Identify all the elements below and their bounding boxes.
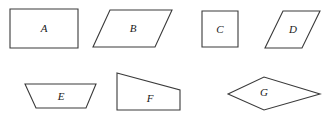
shape-g-label: G	[260, 86, 268, 98]
shape-f: F	[117, 73, 180, 110]
shape-c-label: C	[216, 23, 224, 35]
shape-b-label: B	[130, 22, 137, 34]
shape-b: B	[93, 10, 172, 47]
shape-e: E	[25, 84, 96, 108]
shape-a: A	[10, 9, 78, 48]
shape-canvas: A B C D E F G	[0, 0, 330, 118]
shape-c: C	[202, 11, 238, 47]
shape-g: G	[228, 77, 320, 110]
shape-g-outline	[228, 77, 320, 110]
shape-e-label: E	[57, 90, 65, 102]
quadrilaterals-figure: A B C D E F G	[0, 0, 330, 118]
shape-f-label: F	[146, 92, 154, 104]
shape-d-label: D	[288, 23, 297, 35]
shape-d: D	[265, 11, 320, 48]
shape-a-label: A	[40, 22, 48, 34]
